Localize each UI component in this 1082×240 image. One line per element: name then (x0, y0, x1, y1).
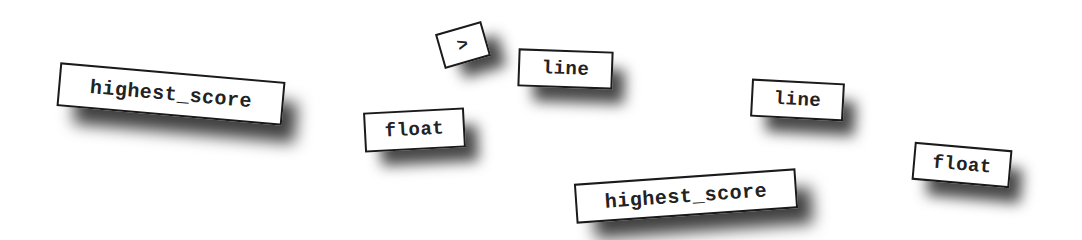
tile-label: float (384, 117, 445, 142)
tile-float-left[interactable]: float (363, 107, 466, 152)
tile-highest-score-bottom[interactable]: highest_score (574, 168, 798, 223)
tile-line-top[interactable]: line (517, 48, 613, 89)
tile-greater-than-operator[interactable]: > (435, 21, 491, 69)
tile-label: line (773, 88, 822, 112)
tile-label: line (541, 57, 589, 81)
tile-line-right[interactable]: line (750, 79, 845, 122)
tile-label: highest_score (604, 179, 768, 213)
tile-highest-score-left[interactable]: highest_score (57, 62, 286, 126)
tile-label: > (455, 34, 471, 56)
tile-label: highest_score (89, 75, 253, 112)
tile-float-right[interactable]: float (912, 142, 1013, 188)
tile-label: float (931, 151, 992, 178)
